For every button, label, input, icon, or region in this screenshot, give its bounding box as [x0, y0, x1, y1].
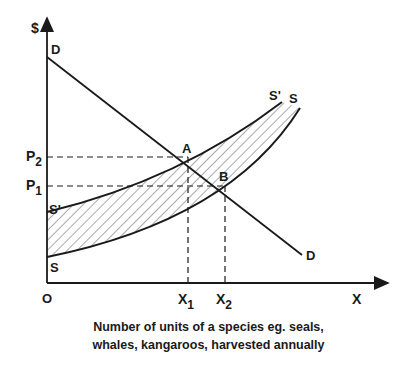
supply-prime-label-top: S'	[269, 88, 281, 103]
origin-label: O	[42, 291, 52, 306]
supply-label-top: S	[289, 91, 298, 106]
y-axis-label: $	[31, 20, 39, 36]
demand-label-bottom: D	[306, 248, 315, 263]
caption-line-2: whales, kangaroos, harvested annually	[0, 336, 417, 354]
supply-label-bottom: S	[50, 260, 59, 275]
x1-label: X1	[178, 291, 194, 312]
x-axis-label: X	[352, 291, 362, 307]
point-b-label: B	[219, 169, 228, 184]
supply-demand-diagram: $ D D S' S S' S A B P2 P1 O X1 X2 X	[0, 0, 417, 368]
caption-line-1: Number of units of a species eg. seals,	[0, 318, 417, 336]
p2-label: P2	[26, 148, 42, 169]
p1-label: P1	[26, 177, 42, 198]
x-axis-caption: Number of units of a species eg. seals, …	[0, 318, 417, 354]
point-a-label: A	[182, 141, 192, 156]
hatched-region	[47, 102, 300, 257]
x2-label: X2	[216, 291, 232, 312]
demand-label-top: D	[51, 42, 60, 57]
supply-prime-label-bottom: S'	[49, 202, 61, 217]
